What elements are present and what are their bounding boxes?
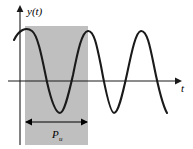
period-label: P	[51, 128, 59, 140]
y-axis-arrowhead	[17, 5, 24, 12]
sustained-oscillation-figure: y(t) t P u	[0, 0, 193, 149]
figure-canvas: y(t) t P u	[0, 0, 193, 149]
period-label-subscript: u	[59, 135, 63, 143]
x-axis-label: t	[181, 82, 185, 94]
y-axis-label: y(t)	[26, 5, 43, 18]
